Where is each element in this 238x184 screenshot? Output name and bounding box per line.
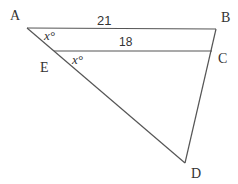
segment-label-ab: 21 — [97, 13, 111, 28]
segment-ad — [27, 28, 185, 163]
angle-label-a: x° — [43, 28, 55, 43]
vertex-label-d: D — [191, 166, 201, 181]
vertex-label-e: E — [40, 60, 49, 75]
geometry-diagram: A B C E D 21 18 x° x° — [0, 0, 238, 184]
vertex-label-b: B — [221, 10, 230, 25]
vertex-label-c: C — [218, 51, 227, 66]
segment-ab — [27, 28, 216, 29]
vertex-label-a: A — [10, 8, 21, 23]
segment-label-ec: 18 — [119, 35, 133, 49]
segment-bd — [185, 29, 216, 163]
angle-label-e: x° — [71, 52, 83, 67]
